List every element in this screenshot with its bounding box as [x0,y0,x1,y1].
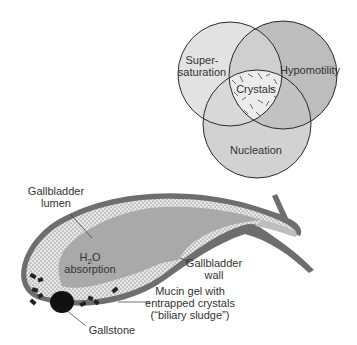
label-hypomotility: Hypomotility [280,64,340,76]
label-crystals: Crystals [236,83,276,95]
label-mucin-2: entrapped crystals [145,297,235,309]
label-nucleation: Nucleation [230,144,282,156]
label-gallbladder-wall-2: wall [204,269,224,281]
label-gallstone: Gallstone [89,324,135,336]
label-gallbladder-lumen-1: Gallbladder [28,185,85,197]
label-mucin-3: (“biliary sludge”) [151,309,230,321]
label-gallbladder-lumen-2: lumen [41,197,71,209]
venn-diagram: Super- saturation Hypomotility Crystals … [178,21,341,178]
label-absorption: absorption [64,263,115,275]
diagram-canvas: Super- saturation Hypomotility Crystals … [0,0,357,345]
label-mucin-1: Mucin gel with [155,285,225,297]
gallstone [50,291,74,313]
label-supersaturation-1: Super- [185,54,218,66]
label-supersaturation-2: saturation [178,66,226,78]
label-gallbladder-wall-1: Gallbladder [186,257,243,269]
gallbladder-illustration: Gallbladder lumen H2O absorption Gallbla… [21,185,314,336]
